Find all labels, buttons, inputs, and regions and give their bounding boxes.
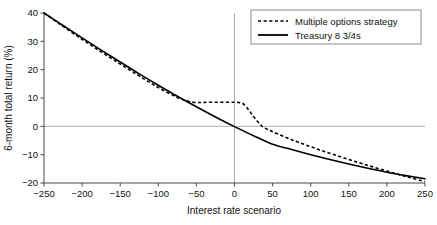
x-tick-label: 150	[341, 188, 357, 199]
y-tick-label: 0	[33, 121, 38, 132]
x-tick-label: −250	[33, 188, 54, 199]
x-tick-label: −100	[148, 188, 169, 199]
y-axis-title: 6-month total return (%)	[3, 45, 14, 151]
x-tick-label: 100	[303, 188, 319, 199]
x-tick-label: −200	[71, 188, 92, 199]
y-tick-label: 10	[27, 92, 38, 103]
x-tick-label: 0	[232, 188, 237, 199]
chart-figure: −250−200−150−100−50050100150200250 40302…	[0, 0, 437, 225]
y-tick-label: 40	[27, 7, 38, 18]
y-tick-label: 20	[27, 64, 38, 75]
x-tick-label: −150	[109, 188, 130, 199]
x-tick-label: −50	[188, 188, 204, 199]
x-tick-label: 250	[417, 188, 433, 199]
legend-label-multiple-options: Multiple options strategy	[295, 16, 398, 27]
chart-canvas: −250−200−150−100−50050100150200250 40302…	[0, 0, 437, 225]
x-axis-title: Interest rate scenario	[187, 205, 281, 216]
legend-label-treasury: Treasury 8 3/4s	[295, 30, 361, 41]
y-tick-label: −10	[22, 149, 38, 160]
x-tick-label: 200	[379, 188, 395, 199]
x-tick-label: 50	[267, 188, 278, 199]
legend: Multiple options strategy Treasury 8 3/4…	[251, 10, 421, 44]
y-tick-label: −20	[22, 177, 38, 188]
y-tick-label: 30	[27, 36, 38, 47]
